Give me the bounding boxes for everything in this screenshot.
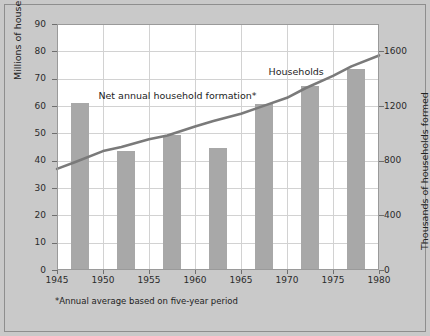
y-axis-left-title: Millions of households bbox=[12, 0, 23, 80]
x-axis-tick-label: 1960 bbox=[175, 276, 215, 285]
y-axis-left-tick-mark bbox=[52, 106, 57, 107]
y-axis-left-tick-mark bbox=[52, 51, 57, 52]
y-axis-right-title: Thousands of households formed bbox=[419, 92, 430, 250]
x-axis-tick-mark bbox=[195, 270, 196, 274]
y-axis-left-tick-mark bbox=[52, 215, 57, 216]
chart-footnote: *Annual average based on five-year perio… bbox=[55, 296, 238, 306]
y-axis-left-tick-label: 30 bbox=[16, 184, 46, 193]
x-axis-tick-mark bbox=[333, 270, 334, 274]
x-axis-tick-label: 1945 bbox=[37, 276, 77, 285]
y-axis-right-tick-label: 1600 bbox=[384, 47, 418, 56]
y-axis-left-tick-label: 20 bbox=[16, 211, 46, 220]
x-axis-tick-mark bbox=[149, 270, 150, 274]
y-axis-right-tick-label: 1200 bbox=[384, 102, 418, 111]
x-axis-tick-mark bbox=[287, 270, 288, 274]
y-axis-right-tick-mark bbox=[379, 51, 384, 52]
y-axis-left-tick-label: 60 bbox=[16, 102, 46, 111]
x-axis-tick-label: 1970 bbox=[267, 276, 307, 285]
y-axis-right-tick-label: 800 bbox=[384, 156, 418, 165]
y-axis-right-tick-mark bbox=[379, 161, 384, 162]
y-axis-right-tick-label: 400 bbox=[384, 211, 418, 220]
series-annotation-label: Net annual household formation* bbox=[98, 90, 256, 101]
y-axis-left-tick-label: 40 bbox=[16, 156, 46, 165]
y-axis-left-tick-label: 0 bbox=[16, 266, 46, 275]
x-axis-tick-mark bbox=[57, 270, 58, 274]
x-axis-tick-label: 1950 bbox=[83, 276, 123, 285]
y-axis-left-tick-mark bbox=[52, 79, 57, 80]
x-axis-tick-mark bbox=[379, 270, 380, 274]
x-axis-tick-mark bbox=[103, 270, 104, 274]
y-axis-right-tick-mark bbox=[379, 215, 384, 216]
x-axis-tick-mark bbox=[241, 270, 242, 274]
y-axis-left-tick-label: 50 bbox=[16, 129, 46, 138]
series-annotation-label: Households bbox=[269, 66, 324, 77]
line-series-households bbox=[57, 24, 379, 270]
y-axis-right-tick-mark bbox=[379, 106, 384, 107]
y-axis-left-tick-mark bbox=[52, 243, 57, 244]
y-axis-left-tick-mark bbox=[52, 24, 57, 25]
y-axis-left-tick-label: 80 bbox=[16, 47, 46, 56]
y-axis-left-tick-label: 70 bbox=[16, 74, 46, 83]
x-axis-tick-label: 1965 bbox=[221, 276, 261, 285]
chart-figure: Millions of households Thousands of hous… bbox=[0, 0, 430, 336]
plot-area bbox=[57, 24, 379, 270]
x-axis-tick-label: 1955 bbox=[129, 276, 169, 285]
x-axis-tick-label: 1975 bbox=[313, 276, 353, 285]
x-axis-tick-label: 1980 bbox=[359, 276, 399, 285]
y-axis-left-tick-mark bbox=[52, 161, 57, 162]
y-axis-left-tick-label: 10 bbox=[16, 238, 46, 247]
y-axis-left-tick-label: 90 bbox=[16, 20, 46, 29]
y-axis-left-tick-mark bbox=[52, 188, 57, 189]
y-axis-left-tick-mark bbox=[52, 133, 57, 134]
y-axis-right-tick-label: 0 bbox=[384, 266, 418, 275]
